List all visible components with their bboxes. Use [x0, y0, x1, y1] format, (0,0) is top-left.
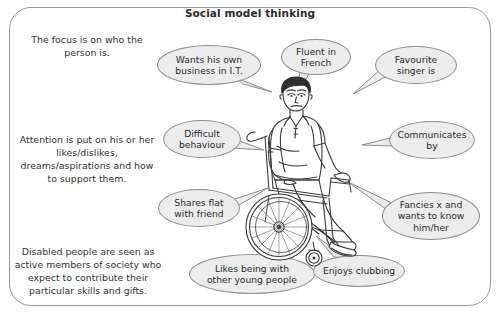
bubble-fancies-line2: wants to know — [398, 210, 465, 222]
bubble-singer: Favourite singer is — [375, 46, 457, 84]
bubble-flat-line2: with friend — [174, 208, 223, 220]
bubble-singer-line1: Favourite — [395, 54, 438, 66]
bubble-communicates-line1: Communicates — [398, 129, 467, 141]
bubble-difficult-line2: behaviour — [179, 139, 225, 151]
bubble-communicates-line2: by — [398, 140, 467, 152]
bubble-difficult-line1: Difficult — [179, 128, 225, 140]
bubble-difficult: Difficult behaviour — [163, 120, 241, 158]
bubble-likes-line2: other young people — [207, 274, 297, 286]
bubble-fancies: Fancies x and wants to know him/her — [382, 192, 480, 240]
bubble-french-line1: Fluent in — [296, 46, 336, 58]
bubble-french-line2: French — [296, 57, 336, 69]
bubble-fancies-line1: Fancies x and — [398, 199, 465, 211]
bubble-business-line2: business in I.T. — [175, 65, 242, 77]
bubble-french: Fluent in French — [281, 39, 351, 75]
bubble-flat: Shares flat with friend — [158, 189, 240, 227]
bubble-fancies-line3: him/her — [398, 222, 465, 234]
wheelchair-user-illustration — [235, 72, 365, 272]
bubble-communicates: Communicates by — [389, 121, 475, 159]
social-model-thinking-diagram: Social model thinking The focus is on wh… — [0, 0, 500, 318]
bubble-business-line1: Wants his own — [175, 54, 242, 66]
bubble-flat-line1: Shares flat — [174, 197, 223, 209]
bubble-singer-line2: singer is — [395, 65, 438, 77]
